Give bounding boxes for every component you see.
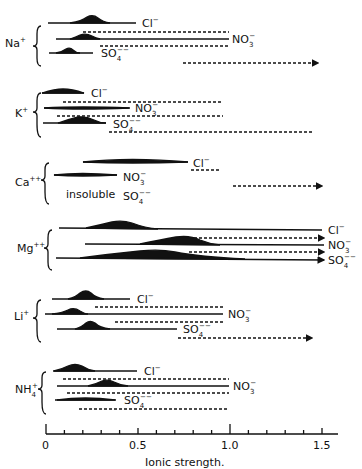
anion-label-cl: Cl−	[142, 16, 159, 30]
cation-label-mg: Mg++	[17, 241, 45, 255]
x-axis	[46, 424, 338, 434]
anion-label-so4: SO4−−	[123, 189, 151, 206]
ionic-strength-diagram: Na+ Cl− NO3− SO4−− K+ Cl− NO3− SO4−− Ca+…	[0, 0, 362, 469]
anion-label-so4: SO4−−	[101, 46, 129, 63]
x-tick-label: 0.5	[129, 439, 147, 452]
group-li	[33, 291, 312, 342]
anion-label-so4: SO4−−	[328, 253, 356, 270]
x-tick-label: 1.5	[313, 439, 331, 452]
anion-label-cl: Cl−	[137, 292, 154, 306]
x-axis-title: Ionic strength.	[145, 456, 224, 469]
anion-label-so4: SO4−−	[183, 322, 211, 339]
cation-label-li: Li+	[14, 309, 29, 323]
insoluble-note: insoluble	[66, 188, 116, 201]
anion-label-cl: Cl−	[193, 156, 210, 170]
x-tick-label: 0	[42, 439, 49, 452]
brace	[33, 26, 41, 66]
cation-label-na: Na+	[5, 36, 26, 50]
anion-label-no3: NO3−	[228, 307, 251, 324]
group-na	[33, 16, 318, 66]
group-mg	[44, 221, 324, 270]
anion-label-cl: Cl−	[328, 223, 345, 237]
cation-label-k: K+	[15, 106, 28, 120]
anion-label-cl: Cl−	[91, 86, 108, 100]
x-tick-label: 1.0	[221, 439, 239, 452]
anion-label-no3: NO3−	[123, 170, 146, 187]
anion-label-cl: Cl−	[144, 364, 161, 378]
cation-label-ca: Ca++	[15, 175, 41, 189]
anion-label-no3: NO3−	[233, 379, 256, 396]
group-k	[33, 89, 312, 137]
cation-label-nh4: NH4+	[15, 382, 38, 399]
anion-label-no3: NO3−	[232, 32, 255, 49]
anion-label-so4: SO4−−	[124, 393, 152, 410]
